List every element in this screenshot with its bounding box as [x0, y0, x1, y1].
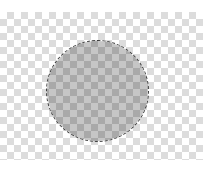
image-canvas[interactable]	[0, 0, 216, 171]
elliptical-selection-marquee[interactable]	[46, 40, 149, 142]
